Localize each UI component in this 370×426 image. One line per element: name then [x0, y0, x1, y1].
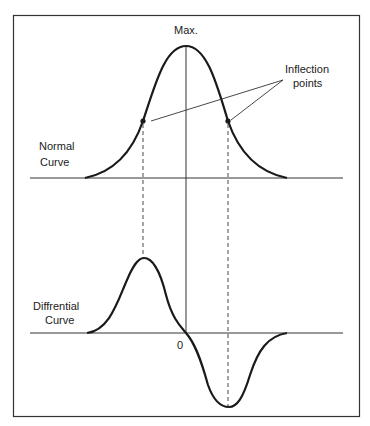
pointer-line-right — [231, 80, 283, 120]
differential-curve-label-line1: Diffrential — [33, 300, 79, 312]
normal-curve-label-line2: Curve — [40, 156, 69, 168]
inflection-point-right — [225, 118, 230, 123]
max-label: Max. — [174, 24, 198, 36]
inflection-label-line2: points — [293, 77, 323, 89]
normal-curve-label-line1: Normal — [39, 140, 74, 152]
inflection-label-line1: Inflection — [285, 63, 329, 75]
zero-label: 0 — [177, 339, 183, 351]
differential-curve-label-line2: Curve — [45, 314, 74, 326]
normal-curve-derivative-diagram: Max. Inflection points Normal Curve Diff… — [0, 0, 370, 426]
inflection-point-left — [140, 118, 145, 123]
